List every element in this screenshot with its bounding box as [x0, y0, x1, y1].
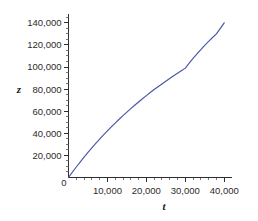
y-tick-label: 60,000 [32, 106, 61, 117]
y-tick-label: 120,000 [27, 39, 61, 50]
y-axis-ticks [64, 17, 69, 172]
y-tick-label: 20,000 [32, 150, 61, 161]
x-tick-label: 40,000 [210, 185, 239, 196]
x-axis-label: t [162, 200, 166, 212]
x-axis-tick-labels: 10,00020,00030,00040,000 [93, 185, 239, 196]
x-tick-label: 10,000 [93, 185, 122, 196]
y-tick-label: 80,000 [32, 84, 61, 95]
origin-label: 0 [61, 177, 66, 188]
y-tick-label: 100,000 [27, 61, 61, 72]
data-series-line [69, 23, 225, 178]
axes-group [69, 14, 233, 178]
x-tick-label: 20,000 [132, 185, 161, 196]
y-axis-label: z [16, 83, 22, 95]
x-axis-ticks [76, 178, 224, 183]
plot-area: 20,00040,00060,00080,000100,000120,00014… [0, 0, 258, 221]
y-axis-tick-labels: 20,00040,00060,00080,000100,000120,00014… [27, 17, 61, 161]
chart-screenshot: 20,00040,00060,00080,000100,000120,00014… [0, 0, 258, 221]
x-tick-label: 30,000 [171, 185, 200, 196]
y-tick-label: 40,000 [32, 128, 61, 139]
y-tick-label: 140,000 [27, 17, 61, 28]
